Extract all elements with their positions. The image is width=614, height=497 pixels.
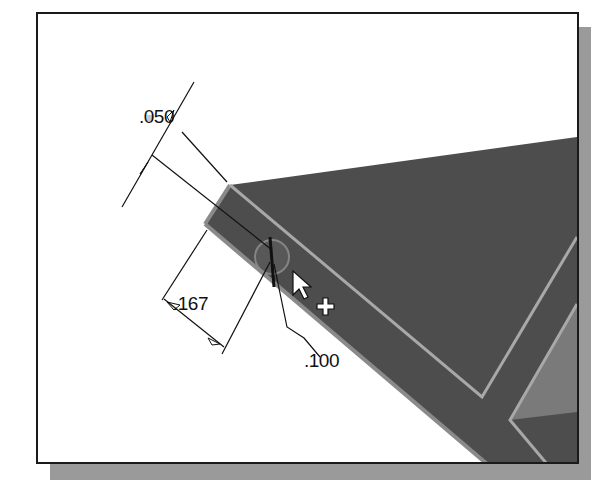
dimension-label-050[interactable]: .050 <box>139 107 174 126</box>
sketch-canvas[interactable] <box>38 14 577 462</box>
dimension-label-100[interactable]: .100 <box>304 351 339 370</box>
dim-050-arrow-bottom <box>140 162 148 174</box>
dim-167-extension-line-2 <box>222 262 270 354</box>
dimension-label-167[interactable]: .167 <box>173 294 208 313</box>
cad-graphics-viewport[interactable]: .050 .167 .100 <box>36 12 579 464</box>
dim-050-extension-line-2 <box>182 132 227 182</box>
dim-050-dimension-line <box>122 82 194 207</box>
plus-icon <box>316 297 336 317</box>
dim-167-extension-line-1 <box>162 230 207 300</box>
